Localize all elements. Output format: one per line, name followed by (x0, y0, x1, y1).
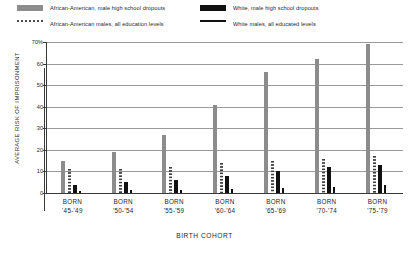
bar (130, 190, 132, 193)
bar (225, 176, 229, 193)
bar (174, 180, 178, 193)
bar (271, 161, 274, 193)
x-axis-category-label: BORN'60-'64 (200, 198, 251, 215)
dotted-line-swatch-icon (17, 20, 43, 28)
bar (322, 159, 325, 194)
bar (366, 44, 370, 193)
bar (180, 190, 182, 193)
bar (68, 169, 71, 193)
bar (162, 135, 166, 193)
gray-bar-swatch-icon (17, 5, 43, 11)
chart-plot-area: 010203040506070% BORN'45-'49BORN'50-'54B… (47, 42, 403, 193)
gridline (47, 64, 403, 65)
legend-label-aa-dropouts: African-American, male high school dropo… (50, 5, 165, 11)
bar (61, 161, 65, 193)
legend-item-aa-all-education: African-American males, all education le… (17, 20, 164, 28)
bar (73, 185, 77, 193)
black-bar-swatch-icon (200, 5, 226, 11)
bar (231, 189, 233, 193)
x-axis-baseline (47, 193, 403, 194)
bar (315, 59, 319, 193)
gridline (47, 85, 403, 86)
y-axis-tick-mark (43, 42, 46, 43)
bar (384, 185, 386, 193)
legend-item-aa-dropouts: African-American, male high school dropo… (17, 5, 165, 11)
bar (276, 171, 280, 193)
y-axis-minor-dash (44, 68, 45, 211)
bar (327, 167, 331, 193)
gridline (47, 171, 403, 172)
bar (213, 105, 217, 193)
bar (333, 187, 335, 193)
bar (79, 191, 81, 193)
gridline (47, 107, 403, 108)
y-axis-title: AVERAGE RISK OF IMPRISONMENT (14, 38, 20, 178)
legend-item-white-dropouts: White, male high school dropouts (200, 5, 319, 11)
bar (169, 167, 172, 193)
x-axis-category-label: BORN'50-'54 (98, 198, 149, 215)
y-axis-tick-label: 70% (32, 39, 43, 45)
bar (264, 72, 268, 193)
bar (373, 156, 376, 193)
legend-item-white-all-education: White males, all educated levels (200, 20, 316, 28)
legend-label-white-dropouts: White, male high school dropouts (233, 5, 319, 11)
legend-label-aa-all-education: African-American males, all education le… (50, 21, 164, 27)
bar (378, 165, 382, 193)
x-axis-category-label: BORN'75-'79 (352, 198, 403, 215)
gridline (47, 42, 403, 43)
gridline (47, 128, 403, 129)
bar (282, 188, 284, 193)
legend-label-white-all-education: White males, all educated levels (233, 21, 316, 27)
gridline (47, 150, 403, 151)
x-axis-category-label: BORN'70-'74 (301, 198, 352, 215)
x-axis-category-label: BORN'45-'49 (47, 198, 98, 215)
x-axis-category-label: BORN'55-'59 (149, 198, 200, 215)
y-axis-tick-mark (43, 64, 46, 65)
chart-legend: African-American, male high school dropo… (0, 0, 409, 34)
bar (220, 163, 223, 193)
bar (124, 182, 128, 193)
x-axis-title: BIRTH COHORT (0, 232, 409, 239)
bar (119, 169, 122, 193)
x-axis-category-label: BORN'65-'69 (250, 198, 301, 215)
solid-line-swatch-icon (200, 20, 226, 28)
bar (112, 152, 116, 193)
